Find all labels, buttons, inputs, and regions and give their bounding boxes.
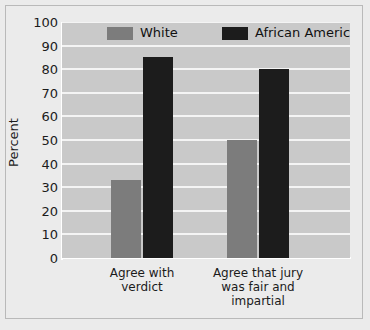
bar-african-american-0 xyxy=(143,57,173,258)
y-axis-tick-label: 50 xyxy=(2,134,58,147)
gridline xyxy=(62,210,350,212)
gridline xyxy=(62,68,350,70)
legend-label: African American xyxy=(255,25,350,41)
y-axis-tick-label: 100 xyxy=(2,16,58,29)
bar-white-0 xyxy=(111,180,141,258)
bar-african-american-1 xyxy=(259,69,289,258)
gridline xyxy=(62,92,350,94)
chart-legend: WhiteAfrican American xyxy=(62,22,350,46)
legend-swatch-icon xyxy=(107,27,133,40)
y-axis-tick-label: 60 xyxy=(2,110,58,123)
gridline xyxy=(62,139,350,141)
gridline xyxy=(62,233,350,235)
y-axis-tick-label: 30 xyxy=(2,181,58,194)
gridline xyxy=(62,163,350,165)
y-axis-tick-label: 70 xyxy=(2,87,58,100)
gridline xyxy=(62,115,350,117)
plot-area: WhiteAfrican American xyxy=(62,22,350,258)
y-axis-tick-label: 20 xyxy=(2,205,58,218)
legend-label: White xyxy=(140,25,178,41)
bar-white-1 xyxy=(227,140,257,258)
legend-swatch-icon xyxy=(222,27,248,40)
x-axis-category-label-1: Agree that jury was fair and impartial xyxy=(188,266,328,308)
chart-figure: Percent 0102030405060708090100 WhiteAfri… xyxy=(0,0,370,330)
y-axis-tick-label: 90 xyxy=(2,40,58,53)
y-axis-ticks: 0102030405060708090100 xyxy=(0,0,58,330)
y-axis-tick-label: 80 xyxy=(2,63,58,76)
y-axis-tick-label: 0 xyxy=(2,252,58,265)
y-axis-tick-label: 40 xyxy=(2,158,58,171)
y-axis-tick-label: 10 xyxy=(2,228,58,241)
gridline xyxy=(62,186,350,188)
